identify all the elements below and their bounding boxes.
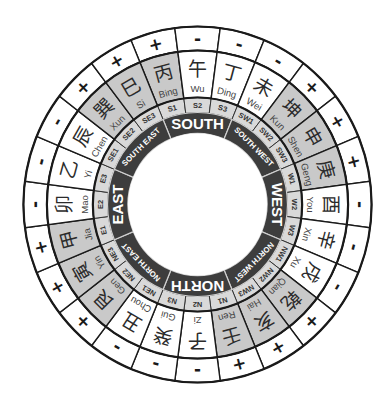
direction-label-west: WEST	[269, 183, 286, 226]
sub-direction-label-s2: S2	[193, 101, 202, 110]
direction-label-east: EAST	[109, 184, 126, 224]
sub-direction-label-n2: N2	[193, 300, 203, 309]
direction-label-north: NORTH	[171, 278, 224, 295]
mountain-character-zi: 子	[188, 330, 207, 352]
direction-label-south: SOUTH	[171, 115, 224, 132]
sub-direction-label-w2: W2	[290, 199, 299, 210]
mountain-character-mao: 卯	[53, 195, 75, 214]
minus-sign-zi: -	[194, 361, 201, 381]
mountain-pinyin-zi: Zi	[194, 315, 202, 326]
compass-diagram: +---+++---+++---+++---++ 丙Bing午Wu丁Ding未W…	[0, 0, 392, 403]
center-circle	[128, 134, 267, 276]
mountain-character-wu: 午	[188, 58, 207, 80]
minus-sign-you: -	[350, 201, 370, 208]
mountain-pinyin-mao: Mao	[79, 195, 90, 213]
mountain-character-you: 酉	[320, 195, 342, 214]
mountain-pinyin-wu: Wu	[190, 83, 204, 94]
minus-sign-mao: -	[25, 201, 45, 208]
mountain-pinyin-you: You	[305, 196, 316, 212]
minus-sign-wu: -	[194, 29, 201, 49]
sub-direction-label-e2: E2	[96, 200, 105, 209]
